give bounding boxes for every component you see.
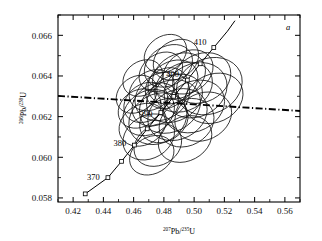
concordia-age-marker <box>132 143 136 147</box>
concordia-age-label-380: 380 <box>113 138 126 148</box>
concordia-plot: 0.420.440.460.480.500.520.540.560.0580.0… <box>0 0 322 241</box>
concordia-age-marker <box>172 94 176 98</box>
x-tick-label: 0.52 <box>217 206 233 216</box>
concordia-age-label-410: 410 <box>194 37 207 47</box>
y-tick-label: 0.064 <box>32 71 53 81</box>
concordia-age-marker <box>145 127 149 131</box>
x-tick-label: 0.54 <box>247 206 263 216</box>
x-tick-label: 0.48 <box>156 206 172 216</box>
concordia-age-marker <box>212 46 216 50</box>
x-tick-label: 0.50 <box>186 206 202 216</box>
y-tick-label: 0.066 <box>32 31 53 41</box>
x-tick-label: 0.42 <box>65 206 81 216</box>
concordia-age-label-370: 370 <box>87 172 100 182</box>
concordia-age-marker <box>106 176 110 180</box>
y-tick-label: 0.062 <box>32 112 52 122</box>
panel-label: a <box>286 22 290 32</box>
concordia-age-label-400: 400 <box>166 69 179 79</box>
concordia-age-marker <box>83 192 87 196</box>
concordia-age-marker <box>198 62 202 66</box>
concordia-age-marker <box>159 111 163 115</box>
concordia-age-marker <box>120 159 124 163</box>
concordia-age-label-390: 390 <box>140 109 153 119</box>
x-tick-label: 0.46 <box>126 206 142 216</box>
concordia-age-marker <box>185 78 189 82</box>
concordia-figure: 0.420.440.460.480.500.520.540.560.0580.0… <box>0 0 322 241</box>
x-tick-label: 0.56 <box>277 206 293 216</box>
x-tick-label: 0.44 <box>96 206 112 216</box>
y-tick-label: 0.060 <box>32 153 53 163</box>
y-tick-label: 0.058 <box>32 193 53 203</box>
